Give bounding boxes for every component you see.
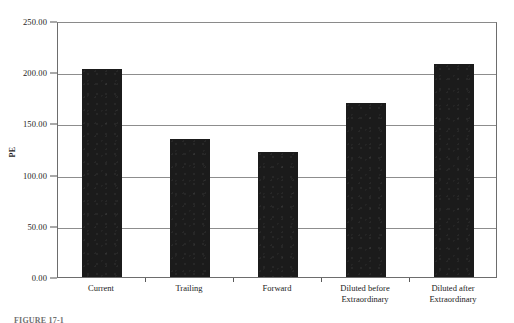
y-tick-mark xyxy=(50,278,57,279)
x-tick-label-line: Forward xyxy=(233,283,321,294)
x-tick-mark xyxy=(145,278,146,282)
x-tick-label-line: Trailing xyxy=(145,283,233,294)
y-tick-label: 250.00 xyxy=(23,17,47,27)
y-tick-mark xyxy=(50,226,57,227)
x-tick-label-line: Extraordinary xyxy=(409,294,497,305)
x-tick-label: Diluted afterExtraordinary xyxy=(409,283,497,304)
bar xyxy=(170,139,210,277)
y-tick-label: 50.00 xyxy=(27,222,47,232)
bar xyxy=(258,152,298,277)
y-tick-label: 200.00 xyxy=(23,68,47,78)
x-axis: CurrentTrailingForwardDiluted beforeExtr… xyxy=(57,283,497,317)
figure-caption: FIGURE 17-1 xyxy=(14,316,64,323)
y-tick-label: 150.00 xyxy=(23,119,47,129)
x-tick-label-line: Extraordinary xyxy=(321,294,409,305)
y-axis: 0.0050.00100.00150.00200.00250.00 xyxy=(0,0,57,323)
x-tick-label: Trailing xyxy=(145,283,233,294)
x-tick-mark xyxy=(409,278,410,282)
y-tick-mark xyxy=(50,22,57,23)
figure-bar-chart: 0.0050.00100.00150.00200.00250.00 PE Cur… xyxy=(0,0,514,323)
x-tick-mark xyxy=(321,278,322,282)
y-tick-label: 100.00 xyxy=(23,171,47,181)
x-tick-mark xyxy=(233,278,234,282)
x-tick-label-line: Diluted after xyxy=(409,283,497,294)
y-tick-mark xyxy=(50,73,57,74)
x-tick-label: Forward xyxy=(233,283,321,294)
y-tick-label: 0.00 xyxy=(32,273,47,283)
x-tick-label: Diluted beforeExtraordinary xyxy=(321,283,409,304)
gridline xyxy=(58,74,496,75)
y-tick-mark xyxy=(50,175,57,176)
y-axis-title: PE xyxy=(8,147,17,158)
bar xyxy=(346,103,386,277)
x-tick-label-line: Current xyxy=(57,283,145,294)
x-tick-label-line: Diluted before xyxy=(321,283,409,294)
plot-area xyxy=(57,22,497,278)
x-tick-label: Current xyxy=(57,283,145,294)
y-tick-mark xyxy=(50,124,57,125)
bar xyxy=(82,69,122,277)
bar xyxy=(434,64,474,277)
gridline xyxy=(58,125,496,126)
